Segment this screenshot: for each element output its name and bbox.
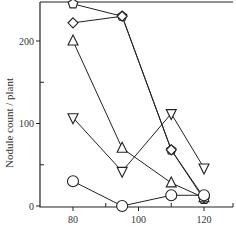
y-tick-label: 200 [19, 36, 34, 47]
y-tick-label: 100 [19, 118, 34, 129]
series-triangle-up-point [68, 35, 78, 45]
series-circle-point [166, 190, 177, 201]
series-markers [68, 0, 210, 212]
series-circle-point [117, 201, 128, 212]
series-triangle-down-point [199, 164, 209, 174]
y-axis-title: Nodule count / plant [3, 78, 15, 168]
x-tick-label: 120 [197, 214, 212, 225]
series-triangle-up-line [73, 41, 204, 198]
series-triangle-down-point [117, 167, 127, 177]
series-circle-point [199, 190, 210, 201]
series-pentagon-line [73, 4, 204, 200]
y-tick-label: 0 [29, 201, 34, 212]
series-triangle-up-point [117, 142, 127, 152]
series-triangle-down-line [73, 114, 204, 172]
series-circle-point [68, 176, 79, 187]
x-tick-label: 100 [131, 214, 146, 225]
series-pentagon-point [68, 0, 78, 8]
axes [40, 2, 233, 207]
axis-frame-left-bottom [40, 2, 233, 207]
series-circle-line [73, 181, 204, 206]
x-tick-label: 80 [68, 214, 78, 225]
nodule-count-chart: 010020080100120 Nodule count / plant [0, 0, 236, 231]
series-lines [73, 4, 204, 206]
series-diamond-point [68, 18, 78, 28]
series-triangle-up-point [166, 177, 176, 187]
